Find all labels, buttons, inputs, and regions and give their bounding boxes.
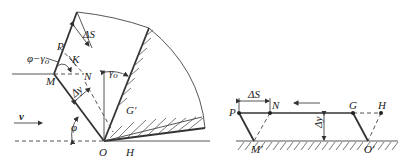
line-GO <box>353 113 368 141</box>
label-N: N <box>83 70 92 82</box>
dashed-line-shear <box>85 82 113 132</box>
phi-gamma-angle-arc <box>57 64 71 72</box>
label-G-prime: G′ <box>126 104 137 116</box>
label-gamma: γo <box>109 66 118 80</box>
right-diagram: P N G H M′ O′ ΔS Δy <box>228 88 398 155</box>
label-delta-s-right: ΔS <box>247 88 260 100</box>
chip-top-arc <box>77 12 149 28</box>
label-M: M <box>45 75 56 87</box>
label-phi: φ <box>71 121 77 133</box>
diagram-canvas: P K N M O H G′ ΔS Δy φ−γo γo φ v <box>0 0 409 167</box>
label-velocity: v <box>19 110 24 122</box>
left-diagram: P K N M O H G′ ΔS Δy φ−γo γo φ v <box>12 12 210 158</box>
label-H: H <box>125 146 135 158</box>
rake-face-hatching <box>118 30 153 106</box>
line-HO-dashed <box>368 113 381 141</box>
line-PM <box>239 113 254 141</box>
label-K: K <box>71 53 80 65</box>
tool-flank <box>104 128 205 141</box>
point-G <box>351 111 355 115</box>
label-O: O <box>99 146 107 158</box>
label-H-right: H <box>377 99 387 111</box>
label-M-prime: M′ <box>250 143 263 155</box>
shear-plane-OM <box>54 74 104 141</box>
tool-hatching <box>104 117 203 141</box>
label-G-right: G <box>349 99 357 111</box>
label-delta-s: ΔS <box>82 28 95 40</box>
label-P-right: P <box>228 106 236 118</box>
label-delta-y: Δy <box>68 83 85 100</box>
label-N-right: N <box>271 99 280 111</box>
label-delta-y-right: Δy <box>312 117 324 129</box>
tool-arc <box>149 28 205 128</box>
label-phi-minus-gamma: φ−γo <box>27 52 50 66</box>
point-H <box>379 111 383 115</box>
line-NM-dashed <box>254 113 270 141</box>
label-O-prime: O′ <box>364 143 375 155</box>
label-P: P <box>56 40 64 52</box>
